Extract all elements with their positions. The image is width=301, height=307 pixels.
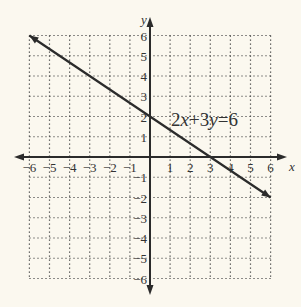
x-tick-label: 2 [187,160,194,175]
x-tick-label: −2 [103,160,117,175]
y-tick-label: −3 [133,211,147,226]
y-tick-label: 1 [141,130,148,145]
x-tick-label: −6 [22,160,36,175]
arrow-up-icon [147,17,154,27]
arrow-down-icon [147,285,154,295]
arrow-right-icon [277,154,287,161]
coordinate-plane: xy −6−5−4−3−2−1123456−6−5−4−3−2−1123456 … [0,0,301,307]
x-tick-label: 3 [207,160,214,175]
y-tick-label: 6 [141,29,148,44]
x-tick-label: −4 [63,160,77,175]
x-tick-label: −3 [83,160,97,175]
y-tick-label: 3 [141,89,148,104]
y-tick-label: 5 [141,49,148,64]
x-tick-label: 5 [247,160,254,175]
equation-label: 2x+3y=6 [171,109,238,130]
y-tick-label: −4 [133,231,147,246]
x-axis-label: x [288,159,295,174]
y-tick-label: −6 [133,272,147,287]
x-tick-label: −5 [43,160,57,175]
line-arrow-start-icon [29,36,38,44]
y-tick-label: −2 [133,191,147,206]
y-axis-label: y [139,12,147,27]
y-tick-label: 4 [141,69,148,84]
x-tick-label: 1 [167,160,174,175]
x-tick-label: 6 [267,160,274,175]
y-tick-label: −5 [133,251,147,266]
y-tick-label: −1 [133,170,147,185]
equation-text: 2x+3y=6 [171,109,238,130]
line-arrow-end-icon [261,190,270,198]
